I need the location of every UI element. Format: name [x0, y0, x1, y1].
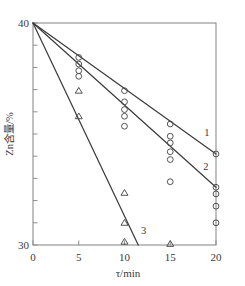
curve-label-1: 1 [204, 127, 209, 138]
marker-circle [167, 149, 173, 155]
x-tick-label-20: 20 [211, 251, 223, 263]
chart-svg: 40 30 0 5 10 15 20 τ/min Zn含量/% 1 2 3 [0, 0, 245, 286]
curve-label-3: 3 [141, 225, 146, 236]
x-axis-title: τ/min [116, 267, 141, 279]
y-axis-title: Zn含量/% [3, 112, 15, 156]
chart-figure: 40 30 0 5 10 15 20 τ/min Zn含量/% 1 2 3 [0, 0, 245, 286]
fit-line-1 [33, 23, 216, 154]
marker-circle [122, 113, 128, 119]
marker-circle [76, 73, 82, 79]
marker-circle [76, 68, 82, 74]
x-tick-label-5: 5 [76, 251, 82, 263]
marker-circle [167, 179, 173, 185]
fit-lines [33, 23, 216, 245]
marker-circle [122, 99, 128, 105]
x-tick-label-15: 15 [165, 251, 177, 263]
marker-circle [122, 107, 128, 113]
marker-circle [167, 157, 173, 163]
axis-labels: 40 30 0 5 10 15 20 τ/min Zn含量/% [3, 17, 222, 279]
y-tick-label-top: 40 [18, 17, 30, 29]
marker-circle [167, 133, 173, 139]
curve-labels: 1 2 3 [141, 127, 209, 236]
marker-circle [167, 140, 173, 146]
x-tick-label-0: 0 [30, 251, 36, 263]
data-markers [75, 55, 219, 247]
marker-triangle [121, 190, 128, 196]
marker-triangle [75, 87, 82, 93]
x-tick-label-10: 10 [119, 251, 131, 263]
marker-circle [122, 123, 128, 129]
fit-line-3 [33, 23, 138, 245]
curve-label-2: 2 [203, 161, 208, 172]
y-tick-label-bottom: 30 [18, 239, 30, 251]
